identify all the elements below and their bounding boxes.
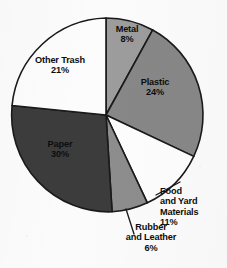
pie-label-food-line3: Materials [160, 207, 222, 217]
pie-label-rubber-line1: Rubber [99, 222, 203, 232]
pie-label-rubber-line2: and Leather [99, 232, 203, 242]
pie-label-food-line1: Food [160, 186, 222, 196]
pie-label-plastic-value: 24% [126, 87, 184, 97]
pie-label-metal: Metal 8% [100, 24, 154, 45]
pie-label-other-trash-value: 21% [21, 65, 99, 75]
pie-label-other-trash-name: Other Trash [21, 55, 99, 65]
pie-label-rubber-value: 6% [99, 243, 203, 253]
pie-label-paper-name: Paper [31, 139, 89, 149]
pie-chart: Metal 8% Plastic 24% Other Trash 21% Pap… [0, 0, 227, 268]
pie-label-plastic-name: Plastic [126, 77, 184, 87]
pie-label-metal-value: 8% [100, 34, 154, 44]
pie-label-plastic: Plastic 24% [126, 77, 184, 98]
pie-label-paper: Paper 30% [31, 139, 89, 160]
pie-label-paper-value: 30% [31, 149, 89, 159]
pie-label-food-line2: and Yard [160, 196, 222, 206]
pie-label-metal-name: Metal [100, 24, 154, 34]
pie-label-rubber-and-leather: Rubber and Leather 6% [99, 222, 203, 253]
pie-label-other-trash: Other Trash 21% [21, 55, 99, 76]
